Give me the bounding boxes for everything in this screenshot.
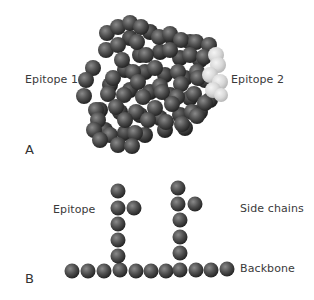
linear-chain-model xyxy=(65,181,235,279)
panel-a-letter: A xyxy=(25,142,34,157)
side-chains-label: Side chains xyxy=(240,202,304,215)
panel-b-letter: B xyxy=(25,271,34,286)
sphere-models xyxy=(0,0,314,300)
globular-protein-model xyxy=(76,15,228,154)
epitope-label: Epitope xyxy=(53,203,95,216)
epitope-2-label: Epitope 2 xyxy=(231,73,284,86)
backbone-spheres xyxy=(65,262,235,279)
backbone-label: Backbone xyxy=(240,262,295,275)
side-chain xyxy=(171,181,203,261)
epitope-side-chain xyxy=(111,184,142,264)
epitope-diagram: Epitope 1 Epitope 2 A Epitope Side chain… xyxy=(0,0,314,300)
epitope-1-label: Epitope 1 xyxy=(25,73,78,86)
